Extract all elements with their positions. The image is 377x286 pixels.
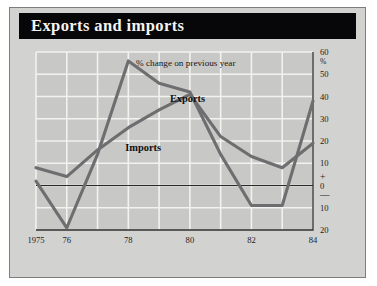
x-tick-label: 84 (309, 235, 318, 245)
x-tick-label: 80 (186, 235, 195, 245)
y-tick-label: 20 (320, 225, 329, 235)
chart-annotation-group: % change on previous year (136, 58, 236, 68)
chart-svg: 60504030201001020%+— 19757678808284 % ch… (0, 0, 377, 286)
x-tick-label: 76 (62, 235, 71, 245)
x-axis-tick-labels: 19757678808284 (27, 235, 318, 245)
y-axis-minus-sign: — (319, 190, 330, 200)
y-axis-unit-label: % (320, 57, 327, 66)
x-tick-label: 1975 (27, 235, 44, 245)
series-label-exports: Exports (170, 93, 205, 104)
screenshot-root: Exports and imports 60504030201001020%+—… (0, 0, 377, 286)
y-tick-label: 50 (320, 69, 329, 79)
series-label-imports: Imports (125, 142, 161, 153)
chart-annotation: % change on previous year (136, 58, 236, 68)
y-axis-tick-labels: 60504030201001020%+— (319, 47, 330, 235)
x-tick-label: 78 (124, 235, 133, 245)
y-tick-label: 40 (320, 92, 329, 102)
y-tick-label: 30 (320, 114, 329, 124)
y-tick-label: 10 (320, 158, 329, 168)
y-tick-label: 60 (320, 47, 329, 57)
y-axis-plus-sign: + (320, 172, 325, 182)
chart-figure: 60504030201001020%+— 19757678808284 % ch… (0, 0, 377, 286)
y-tick-label: 20 (320, 136, 329, 146)
y-tick-label: 10 (320, 203, 329, 213)
x-tick-label: 82 (247, 235, 256, 245)
